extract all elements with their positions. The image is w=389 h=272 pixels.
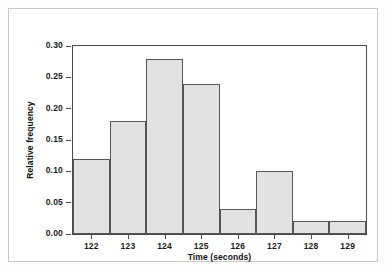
x-tick-label: 122 xyxy=(84,241,99,251)
y-tick-label: 0.30 xyxy=(46,40,63,50)
y-tick-label: 0.05 xyxy=(46,197,63,207)
histogram-bar xyxy=(220,209,257,234)
x-axis-title: Time (seconds) xyxy=(72,252,367,262)
histogram-bar xyxy=(293,221,330,234)
y-tick-mark xyxy=(66,171,71,172)
histogram-bar xyxy=(146,59,183,234)
y-tick-mark xyxy=(66,108,71,109)
histogram-bar xyxy=(256,171,293,234)
histogram-bar xyxy=(73,159,110,234)
x-tick-label: 129 xyxy=(340,241,355,251)
x-tick-label: 124 xyxy=(157,241,172,251)
y-tick-mark xyxy=(66,46,71,47)
histogram-bar xyxy=(110,121,147,234)
y-tick-label: 0.10 xyxy=(46,165,63,175)
x-tick-mark xyxy=(238,235,239,239)
y-axis-ticks: 0.000.050.100.150.200.250.30 xyxy=(9,45,72,235)
y-tick-label: 0.15 xyxy=(46,134,63,144)
x-tick-mark xyxy=(348,235,349,239)
y-tick-mark xyxy=(66,202,71,203)
x-tick-label: 123 xyxy=(121,241,136,251)
histogram-figure: Relative frequency 0.000.050.100.150.200… xyxy=(0,0,389,272)
x-tick-label: 127 xyxy=(267,241,282,251)
plot-frame xyxy=(72,45,367,235)
y-tick-mark xyxy=(66,77,71,78)
y-tick-label: 0.00 xyxy=(46,228,63,238)
y-tick-mark xyxy=(66,234,71,235)
x-tick-mark xyxy=(201,235,202,239)
x-tick-mark xyxy=(91,235,92,239)
x-tick-mark xyxy=(274,235,275,239)
y-tick-mark xyxy=(66,140,71,141)
x-tick-mark xyxy=(128,235,129,239)
x-tick-mark xyxy=(311,235,312,239)
x-tick-label: 128 xyxy=(304,241,319,251)
x-tick-label: 125 xyxy=(194,241,209,251)
x-tick-label: 126 xyxy=(230,241,245,251)
plot-area xyxy=(73,46,366,234)
figure-outer-frame: Relative frequency 0.000.050.100.150.200… xyxy=(8,8,378,262)
histogram-bar xyxy=(183,84,220,234)
x-tick-mark xyxy=(165,235,166,239)
histogram-bar xyxy=(329,221,366,234)
y-tick-label: 0.25 xyxy=(46,71,63,81)
y-tick-label: 0.20 xyxy=(46,103,63,113)
